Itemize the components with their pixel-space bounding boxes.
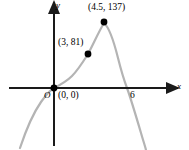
data-point-origin: [51, 85, 58, 92]
x-tick-label-6: 6: [130, 91, 135, 101]
point-label-peak: (4.5, 137): [88, 3, 125, 13]
x-axis-label: x: [177, 82, 181, 91]
data-point-peak: [101, 19, 108, 26]
origin-letter-label: O: [44, 91, 51, 100]
graph-figure: (4.5, 137) (3, 81) (0, 0) O 6 x y: [0, 0, 189, 150]
data-point-mid: [85, 51, 92, 58]
point-label-origin: (0, 0): [58, 91, 79, 101]
point-label-mid: (3, 81): [58, 38, 83, 48]
plot-canvas: [0, 0, 189, 150]
y-axis-label: y: [56, 1, 60, 10]
